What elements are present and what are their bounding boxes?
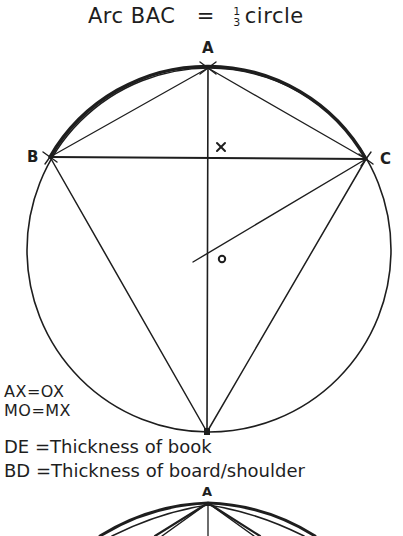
line-b-bottom (50, 157, 207, 432)
chord-ac (208, 68, 366, 159)
diagram-canvas: Arc BAC = 1 3 circle A B C A AX=OX MO=MX… (0, 0, 403, 536)
title-right: circle (245, 4, 304, 28)
equation-ax-ox: AX=OX (4, 382, 64, 401)
radius-oc (193, 159, 366, 262)
line-c-bottom (207, 159, 366, 432)
circle (27, 68, 391, 432)
second-diagram (100, 503, 315, 536)
center-o-marker (219, 256, 225, 262)
title-equals: = (197, 4, 215, 28)
label-point-a: A (202, 39, 214, 57)
chord-ab (50, 68, 208, 157)
equation-mo-mx: MO=MX (4, 401, 71, 420)
title-left: Arc BAC (88, 4, 175, 28)
bottom-point-marker (204, 428, 210, 435)
fraction-denominator: 3 (233, 17, 241, 28)
fraction: 1 3 (233, 6, 241, 28)
definition-de: DE =Thickness of book (4, 436, 212, 457)
label-point-c: C (380, 150, 391, 168)
label-point-a-second: A (202, 484, 212, 499)
vertical-diameter (207, 66, 208, 434)
definition-bd: BD =Thickness of board/shoulder (4, 460, 305, 481)
diagram-title: Arc BAC = 1 3 circle (88, 4, 304, 28)
label-point-b: B (27, 148, 38, 166)
